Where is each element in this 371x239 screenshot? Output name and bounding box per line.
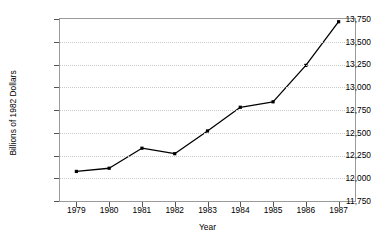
y-tick-label: 13,750 (319, 15, 371, 23)
gridline (60, 156, 355, 157)
x-tick-mark (273, 202, 274, 207)
y-tick-label: 13,500 (319, 38, 371, 46)
x-axis-title: Year (59, 222, 356, 232)
data-point-marker (239, 106, 242, 109)
gridline (60, 65, 355, 66)
y-tick-label: 11,750 (319, 197, 371, 205)
x-tick-mark (240, 202, 241, 207)
x-tick-mark (76, 202, 77, 207)
figure-container: FIGURE 1A. THE REAL VALUE OF TOTAL PRODU… (0, 0, 371, 239)
gridline (60, 87, 355, 88)
y-tick-mark (54, 201, 59, 202)
chart-title-text: FIGURE 1A. THE REAL VALUE OF TOTAL PRODU… (36, 0, 346, 2)
gridline (60, 133, 355, 134)
y-tick-label: 12,000 (319, 174, 371, 182)
y-tick-mark (54, 87, 59, 88)
y-tick-mark (54, 133, 59, 134)
x-tick-mark (208, 202, 209, 207)
x-tick-mark (109, 202, 110, 207)
y-tick-mark (54, 110, 59, 111)
data-point-marker (140, 147, 143, 150)
y-tick-label: 12,750 (319, 106, 371, 114)
y-tick-mark (54, 42, 59, 43)
x-tick-mark (339, 202, 340, 207)
gridline (60, 178, 355, 179)
y-tick-mark (54, 156, 59, 157)
series-polyline (76, 22, 338, 172)
x-tick-mark (175, 202, 176, 207)
plot-area (59, 18, 356, 202)
y-tick-label: 12,250 (319, 151, 371, 159)
y-tick-mark (54, 65, 59, 66)
data-point-marker (75, 170, 78, 173)
x-tick-label: 1987 (319, 206, 359, 214)
y-tick-label: 12,500 (319, 129, 371, 137)
y-tick-mark (54, 178, 59, 179)
y-tick-label: 13,000 (319, 83, 371, 91)
y-tick-label: 13,250 (319, 60, 371, 68)
gridline (60, 110, 355, 111)
data-point-marker (108, 167, 111, 170)
gridline (60, 42, 355, 43)
y-axis-title: Billions of 1982 Dollars (8, 38, 18, 188)
x-tick-mark (306, 202, 307, 207)
data-point-marker (271, 100, 274, 103)
chart-title-clipped: FIGURE 1A. THE REAL VALUE OF TOTAL PRODU… (0, 0, 371, 6)
x-tick-mark (142, 202, 143, 207)
y-tick-mark (54, 19, 59, 20)
